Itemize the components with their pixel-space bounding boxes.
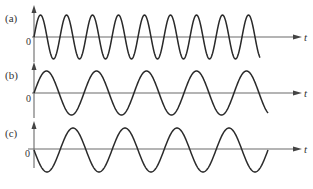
waveform-figure: (a) 0 t (b) 0 t (c) 0 t <box>0 0 313 189</box>
x-axis-label-a: t <box>304 31 308 43</box>
panel-label-c: (c) <box>5 127 18 140</box>
waveform-c <box>34 128 268 172</box>
origin-label-b: 0 <box>26 93 31 104</box>
x-axis-arrow-icon-c <box>293 147 302 152</box>
panel-a: (a) 0 t <box>5 5 308 62</box>
x-axis-label-c: t <box>304 143 308 155</box>
y-axis-arrow-icon-a <box>32 5 37 13</box>
origin-label-c: 0 <box>25 148 30 159</box>
y-axis-arrow-icon-b <box>32 62 37 70</box>
y-axis-arrow-icon-c <box>32 121 37 129</box>
panel-c: (c) 0 t <box>5 121 308 172</box>
x-axis-label-b: t <box>304 87 308 99</box>
panel-b: (b) 0 t <box>5 62 308 118</box>
x-axis-arrow-icon-b <box>293 91 302 96</box>
panel-label-a: (a) <box>5 12 18 25</box>
panel-label-b: (b) <box>5 69 18 82</box>
origin-label-a: 0 <box>26 36 31 47</box>
x-axis-arrow-icon-a <box>293 35 302 40</box>
